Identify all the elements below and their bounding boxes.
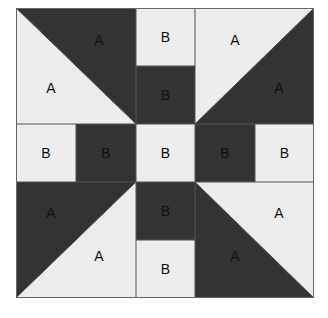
label-a: A — [230, 248, 240, 264]
square-upper-center: B — [136, 66, 195, 124]
label-b: B — [220, 145, 229, 161]
label-b: B — [161, 29, 170, 45]
square-lower-center: B — [136, 182, 195, 240]
label-b: B — [161, 145, 170, 161]
label-a: A — [46, 80, 56, 96]
square-top-center: B — [136, 8, 195, 66]
label-b: B — [161, 261, 170, 277]
label-b: B — [41, 145, 50, 161]
label-b: B — [101, 145, 110, 161]
label-a: A — [46, 205, 56, 221]
label-b: B — [161, 87, 170, 103]
label-a: A — [274, 80, 284, 96]
square-middle-far-left: B — [16, 124, 76, 182]
label-a: A — [94, 248, 104, 264]
square-center: B — [136, 124, 195, 182]
square-middle-far-right: B — [255, 124, 314, 182]
label-b: B — [280, 145, 289, 161]
label-b: B — [161, 203, 170, 219]
square-middle-left: B — [76, 124, 136, 182]
quilt-diagram: A A A A A A A A B B B B B — [16, 8, 314, 298]
label-a: A — [274, 205, 284, 221]
label-a: A — [230, 32, 240, 48]
square-bottom-center: B — [136, 240, 195, 298]
quilt-block: A A A A A A A A B B B B B — [16, 8, 314, 298]
label-a: A — [94, 32, 104, 48]
square-middle-right: B — [195, 124, 255, 182]
